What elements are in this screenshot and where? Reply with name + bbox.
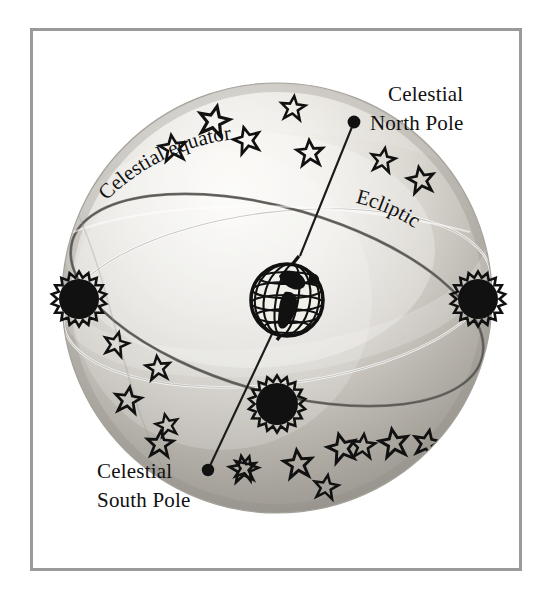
celestial-sphere-figure: Celestial North Pole Celestial South Pol… [0,0,555,602]
image-border-frame [30,28,522,571]
